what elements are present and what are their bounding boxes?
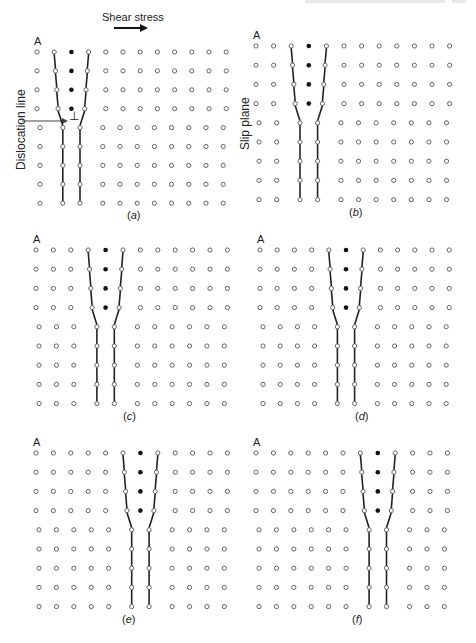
atom (37, 585, 41, 589)
atom (86, 509, 90, 513)
atom (374, 121, 378, 125)
bond-line (57, 92, 58, 107)
atom (69, 286, 73, 290)
atom (292, 585, 296, 589)
atom (444, 363, 448, 367)
atom (292, 566, 296, 570)
panel-caption-c: (c) (123, 410, 136, 422)
atom (225, 470, 229, 474)
atom (289, 470, 293, 474)
atom (389, 509, 393, 513)
bond-line (331, 290, 332, 305)
atom (130, 547, 134, 551)
atom (153, 382, 157, 386)
atom (69, 248, 73, 252)
atom (121, 69, 125, 73)
atom (208, 306, 212, 310)
bond-line (318, 106, 323, 121)
atom (254, 489, 258, 493)
atom (54, 325, 58, 329)
atom (72, 547, 76, 551)
atom (313, 325, 317, 329)
atom (323, 63, 327, 67)
bond-line (120, 271, 121, 286)
atom (135, 163, 139, 167)
atom (156, 248, 160, 252)
atom (356, 140, 360, 144)
atom (320, 102, 324, 106)
atom (367, 547, 371, 551)
extra-half-plane-atom (344, 286, 349, 291)
atom (292, 82, 296, 86)
atom (324, 451, 328, 455)
atom (135, 382, 139, 386)
atom (316, 178, 320, 182)
atom (205, 547, 209, 551)
atom (37, 402, 41, 406)
atom (170, 325, 174, 329)
atom (205, 382, 209, 386)
atom (257, 178, 261, 182)
atom (69, 267, 73, 271)
extra-half-plane-atom (69, 88, 74, 93)
atom (360, 82, 364, 86)
atom (425, 605, 429, 609)
atom (135, 201, 139, 205)
panel-caption-e: (e) (122, 613, 135, 625)
atom (344, 547, 348, 551)
atom (89, 605, 93, 609)
atom (392, 198, 396, 202)
atom (225, 451, 229, 455)
atom (289, 44, 293, 48)
bond-line (124, 474, 125, 489)
bond-line (393, 474, 394, 489)
atom (353, 325, 357, 329)
atom (78, 163, 82, 167)
atom (428, 489, 432, 493)
bond-line (333, 310, 338, 325)
atom (425, 547, 429, 551)
atom (173, 286, 177, 290)
atom (89, 585, 93, 589)
bond-line (361, 271, 362, 286)
atom (353, 344, 357, 348)
atom (104, 107, 108, 111)
atom (120, 267, 124, 271)
atom (118, 182, 122, 186)
atom (367, 585, 371, 589)
atom (367, 605, 371, 609)
atom (204, 144, 208, 148)
extra-half-plane-atom (69, 106, 74, 111)
atom (295, 382, 299, 386)
extra-half-plane-atom (376, 508, 381, 513)
atom (306, 509, 310, 513)
panel-caption-d: (d) (355, 410, 368, 422)
atom (410, 325, 414, 329)
atom (225, 267, 229, 271)
atom (222, 363, 226, 367)
atom (407, 566, 411, 570)
atom (121, 248, 125, 252)
atom (130, 566, 134, 570)
panel-caption-b: (b) (349, 206, 362, 218)
atom (327, 248, 331, 252)
atom (173, 470, 177, 474)
atom (278, 325, 282, 329)
atom (169, 182, 173, 186)
atom (272, 63, 276, 67)
bond-line (55, 73, 56, 88)
atom (173, 509, 177, 513)
atom (257, 605, 261, 609)
panel-caption-f: (f) (352, 613, 362, 625)
atom (107, 528, 111, 532)
atom (335, 402, 339, 406)
atom (69, 470, 73, 474)
atom (409, 140, 413, 144)
corner-label-d: A (257, 233, 264, 245)
atom (313, 382, 317, 386)
panel-caption-a: (a) (127, 209, 140, 221)
atom (254, 82, 258, 86)
atom (329, 286, 333, 290)
atom (135, 126, 139, 130)
atom (448, 102, 452, 106)
